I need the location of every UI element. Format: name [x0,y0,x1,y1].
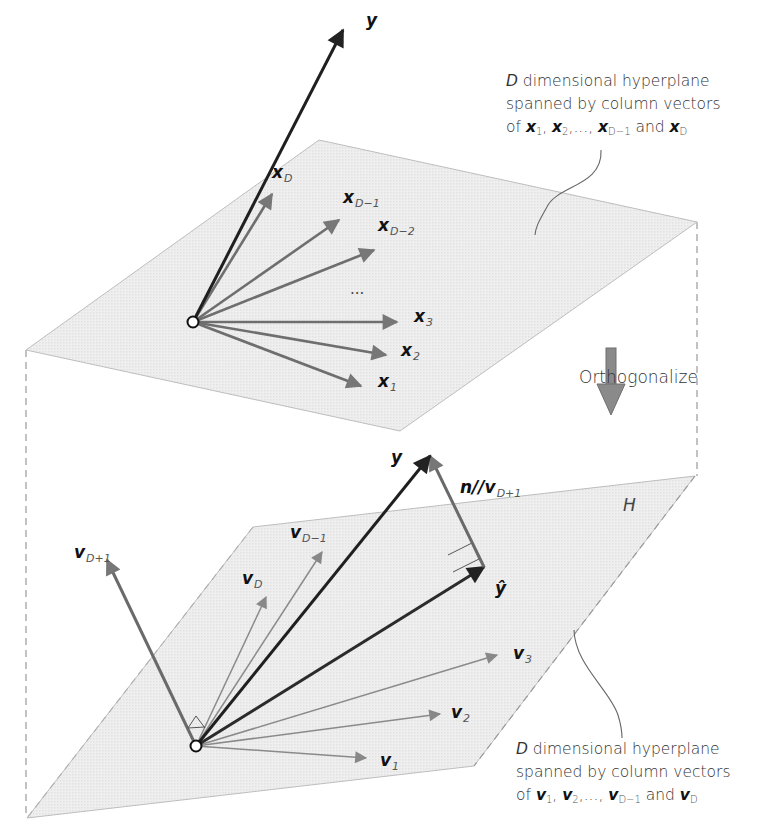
top-annotation-line2: spanned by column vectors [506,93,721,116]
top-annotation: D dimensional hyperplane spanned by colu… [506,70,721,143]
top-label-x-d-1: xD−1 [343,189,380,209]
orthogonalize-label: Orthogonalize [579,369,698,386]
bottom-annotation-line1: D dimensional hyperplane [516,738,731,761]
bottom-origin-point [191,741,202,752]
hyperplane-h-label: H [623,497,636,514]
normal-label-base: v [485,477,496,497]
top-label-x-2: x2 [401,342,420,362]
bottom-label-v-3: v3 [513,645,532,665]
bottom-annotation-leader [574,630,622,738]
ellipsis-label: ... [350,282,364,297]
bottom-label-v-d-1: vD+1 [74,544,111,564]
top-origin-point [188,317,199,328]
top-annotation-line3: of x1, x2,..., xD−1 and xD [506,116,721,143]
top-label-x-d-2: xD−2 [378,217,415,237]
top-y-label: y [366,12,377,29]
top-annotation-line1: D dimensional hyperplane [506,70,721,93]
bottom-annotation-line2: spanned by column vectors [516,761,731,784]
normal-label-prefix: n// [460,477,485,497]
top-label-x-1: x1 [378,373,397,393]
bottom-label-v-d-1: vD−1 [290,524,327,544]
top-label-x-3: x3 [414,308,433,328]
normal-label-sub: D+1 [497,487,522,500]
bottom-annotation-line3: of v1, v2,..., vD−1 and vD [516,784,731,811]
top-label-x-d: xD [272,164,292,184]
bottom-label-v-2: v2 [451,704,470,724]
y-hat-label: ŷ [495,580,506,597]
normal-vector-label: n//vD+1 [460,479,521,499]
bottom-annotation: D dimensional hyperplane spanned by colu… [516,738,731,811]
bottom-label-v-d: vD [242,570,263,590]
bottom-label-v-1: v1 [380,752,399,772]
bottom-y-label: y [391,449,402,466]
